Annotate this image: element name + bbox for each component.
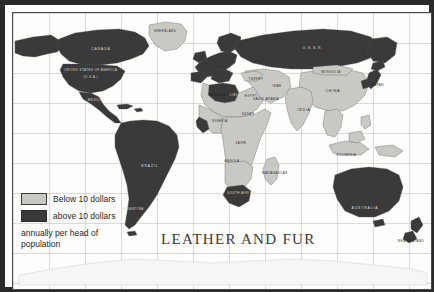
country-mongolia — [313, 65, 353, 75]
legend-swatch-below-10-icon — [21, 193, 47, 205]
legend-item-below-10: Below 10 dollars — [21, 193, 149, 205]
legend-swatch-above-10-icon — [21, 210, 47, 222]
country-ussr — [235, 29, 379, 69]
island-philippines — [361, 115, 371, 129]
legend-note: annually per head of population — [21, 228, 131, 249]
region-far-east-russia — [367, 37, 397, 63]
region-southeast-asia — [323, 109, 343, 137]
country-alaska — [15, 35, 63, 57]
legend-note-line2: population — [21, 239, 131, 250]
legend-item-above-10: above 10 dollars — [21, 210, 149, 222]
island-new-guinea — [375, 145, 403, 157]
region-italy-balkans — [211, 69, 233, 83]
map-figure: CANADA UNITED STATES OF AMERICA (U.S.A.)… — [0, 0, 434, 292]
country-india — [285, 87, 313, 131]
legend-label-below-10: Below 10 dollars — [53, 194, 115, 204]
legend-note-line1: annually per head of — [21, 228, 131, 239]
map-legend: Below 10 dollars above 10 dollars annual… — [21, 193, 149, 249]
island-hispaniola — [134, 108, 143, 112]
island-borneo — [349, 131, 365, 143]
country-new-zealand-south — [403, 231, 417, 243]
country-new-zealand — [411, 217, 423, 233]
region-caribbean — [117, 104, 133, 109]
country-australia — [333, 167, 403, 217]
country-mexico — [79, 92, 121, 123]
country-greenland — [149, 22, 187, 51]
map-outer-frame: CANADA UNITED STATES OF AMERICA (U.S.A.)… — [0, 0, 434, 292]
region-indonesia — [329, 141, 369, 155]
island-tasmania — [373, 219, 385, 227]
country-united-states — [60, 64, 125, 93]
region-antarctica — [19, 259, 427, 285]
island-madagascar — [263, 157, 279, 185]
map-title: LEATHER AND FUR — [161, 231, 316, 248]
map-inner-frame: CANADA UNITED STATES OF AMERICA (U.S.A.)… — [12, 12, 432, 290]
country-canada — [57, 29, 149, 65]
island-hokkaido — [371, 61, 385, 71]
legend-label-above-10: above 10 dollars — [53, 211, 115, 221]
country-south-africa — [223, 185, 251, 207]
country-japan — [367, 69, 381, 89]
